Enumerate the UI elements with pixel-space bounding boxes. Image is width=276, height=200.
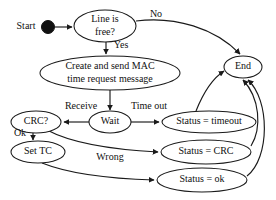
flowchart-svg: End (long arc across top-right) --> Crea… bbox=[0, 0, 276, 200]
node-create-send-mac-label-1: Create and send MAC bbox=[65, 60, 154, 71]
start-label: Start bbox=[17, 20, 36, 31]
edge-label-receive: Receive bbox=[65, 100, 98, 111]
node-set-tc-label: Set TC bbox=[24, 145, 52, 156]
edge-label-yes: Yes bbox=[114, 39, 129, 50]
node-end-label: End bbox=[235, 60, 251, 71]
node-crc-label: CRC? bbox=[24, 115, 49, 126]
edge-set-tc-to-status-ok bbox=[42, 163, 154, 180]
node-line-is-free-label-1: Line is bbox=[91, 13, 119, 24]
flowchart-canvas: End (long arc across top-right) --> Crea… bbox=[0, 0, 276, 200]
start-node-dot bbox=[42, 21, 55, 34]
node-status-ok-label: Status = ok bbox=[179, 173, 224, 184]
node-line-is-free-label-2: free? bbox=[95, 26, 116, 37]
edge-line-free-no-to-end bbox=[136, 20, 240, 54]
edge-label-wrong: Wrong bbox=[96, 151, 123, 162]
edge-label-no: No bbox=[150, 8, 162, 19]
node-create-send-mac-label-2: time request message bbox=[67, 73, 153, 84]
node-status-crc-label: Status = CRC bbox=[178, 145, 233, 156]
edge-label-ok: Ok bbox=[14, 127, 26, 138]
node-status-timeout-label: Status = timeout bbox=[176, 115, 242, 126]
node-wait-label: Wait bbox=[101, 115, 120, 126]
edge-status-timeout-to-end bbox=[196, 71, 224, 111]
edge-label-time-out: Time out bbox=[131, 100, 167, 111]
